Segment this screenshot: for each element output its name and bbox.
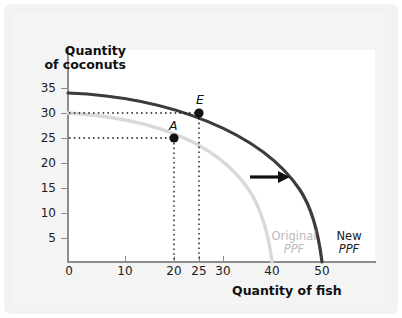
shift-arrow-icon [250,171,290,183]
new-ppf-label-line1: New [336,229,361,243]
original-ppf-label-line2: PPF [284,242,304,256]
point-marker-e [194,108,203,117]
curves-layer [0,0,402,318]
original-ppf-curve [68,113,272,262]
point-marker-a [169,133,178,142]
point-label-a: A [169,119,178,132]
ppf-chart-figure: 35 30 25 20 15 10 5 0 10 20 25 30 40 50 … [0,0,402,318]
original-ppf-label-line1: Original [271,229,316,243]
point-label-e: E [196,93,204,106]
new-ppf-label: New PPF [326,230,372,256]
original-ppf-label: Original PPF [266,230,322,256]
new-ppf-label-line2: PPF [339,242,359,256]
